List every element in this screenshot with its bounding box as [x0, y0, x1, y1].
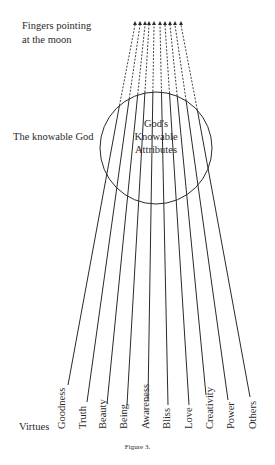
virtue-label-bliss: Bliss	[161, 408, 172, 429]
virtue-label-goodness: Goodness	[56, 388, 67, 429]
pointing-dashed-line	[153, 25, 154, 91]
virtue-label-love: Love	[183, 407, 194, 429]
pointing-dashed-line	[170, 25, 177, 96]
circle-label-line1: God's	[126, 117, 186, 130]
pointing-dashed-line	[160, 25, 161, 92]
arrow-tip-icon	[138, 21, 142, 25]
pointing-dashed-line	[175, 25, 186, 101]
virtue-line	[87, 99, 129, 402]
pointing-dashed-line	[119, 25, 135, 105]
circle-label-line2: Knowable	[126, 130, 186, 143]
arrow-tip-icon	[147, 21, 151, 25]
virtue-label-beauty: Beauty	[97, 399, 108, 429]
arrow-tip-icon	[158, 21, 162, 25]
knowable-god-label: The knowable God	[13, 130, 93, 143]
arrow-tip-icon	[143, 21, 147, 25]
virtue-label-others: Others	[247, 401, 258, 429]
virtue-line	[68, 105, 119, 385]
virtue-label-creativity: Creativity	[204, 387, 215, 429]
pointing-dashed-line	[145, 25, 149, 92]
arrow-tip-icon	[179, 21, 183, 25]
fingers-label-line2: at the moon	[22, 33, 72, 46]
arrow-tip-icon	[168, 21, 172, 25]
figure-caption: Figure 3.	[0, 443, 275, 451]
pointing-dashed-line	[165, 25, 170, 93]
diagram-lines	[0, 0, 275, 465]
circle-label-line3: Attributes	[126, 143, 186, 156]
virtue-label-being: Being	[118, 404, 129, 429]
arrow-tip-icon	[133, 21, 137, 25]
virtue-label-truth: Truth	[77, 406, 88, 429]
fingers-label-line1: Fingers pointing	[22, 19, 91, 32]
pointing-dashed-line	[181, 25, 197, 110]
arrow-tip-icon	[163, 21, 167, 25]
arrow-tip-icon	[152, 21, 156, 25]
pointing-dashed-line	[129, 25, 140, 99]
arrow-tip-icon	[173, 21, 177, 25]
virtues-label: Virtues	[19, 420, 49, 433]
virtue-label-power: Power	[225, 402, 236, 429]
virtue-line	[197, 110, 250, 397]
virtue-label-awareness: Awareness	[140, 384, 151, 429]
